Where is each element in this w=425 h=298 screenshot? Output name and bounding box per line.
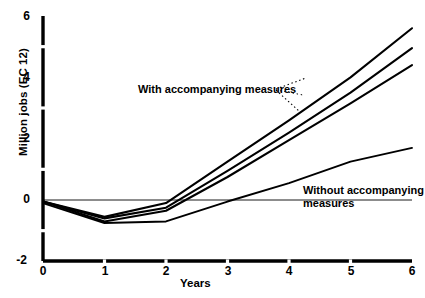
x-tick-label-0: 0: [30, 264, 56, 278]
x-axis-title: Years: [180, 277, 211, 289]
y-tick-label-4: 4: [6, 70, 30, 84]
y-axis-title: Million jobs (EC 12): [17, 17, 29, 187]
x-tick-label-6: 6: [399, 264, 425, 278]
y-tick-label-2: 2: [6, 131, 30, 145]
annotation-without-accompanying-measures-line1: Without accompanying: [303, 184, 424, 197]
x-tick-label-2: 2: [153, 264, 179, 278]
annotation-with-accompanying-measures: With accompanying measures: [138, 83, 296, 96]
x-tick-label-5: 5: [338, 264, 364, 278]
annotation-without-accompanying-measures-line2: measures: [303, 197, 354, 210]
x-tick-label-4: 4: [276, 264, 302, 278]
y-tick-label-minus-2: -2: [3, 253, 27, 267]
x-tick-label-3: 3: [215, 264, 241, 278]
x-tick-label-1: 1: [92, 264, 118, 278]
y-tick-label-6: 6: [6, 9, 30, 23]
y-tick-label-0: 0: [6, 192, 30, 206]
